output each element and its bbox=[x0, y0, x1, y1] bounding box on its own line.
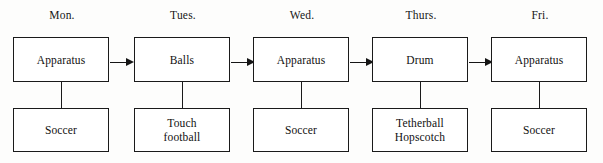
day-label-thursday: Thurs. bbox=[371, 8, 471, 22]
weekly-schedule-diagram: Mon. Apparatus Soccer Tues. Balls Touch … bbox=[0, 0, 603, 163]
connector-line-thursday bbox=[420, 81, 421, 109]
equipment-label-thursday: Drum bbox=[403, 53, 436, 67]
schedule-column-tuesday: Tues. Balls Touch football bbox=[133, 0, 233, 163]
activity-box-thursday: Tetherball Hopscotch bbox=[372, 108, 468, 152]
equipment-box-tuesday: Balls bbox=[134, 37, 230, 82]
schedule-column-thursday: Thurs. Drum Tetherball Hopscotch bbox=[371, 0, 471, 163]
equipment-label-friday: Apparatus bbox=[512, 53, 567, 67]
activity-box-friday: Soccer bbox=[491, 108, 587, 152]
schedule-column-wednesday: Wed. Apparatus Soccer bbox=[252, 0, 352, 163]
activity-box-wednesday: Soccer bbox=[253, 108, 349, 152]
connector-line-monday bbox=[61, 81, 62, 109]
flow-arrow-monday-to-tuesday bbox=[110, 58, 135, 67]
connector-line-tuesday bbox=[182, 81, 183, 109]
day-label-friday: Fri. bbox=[490, 8, 590, 22]
activity-box-monday: Soccer bbox=[13, 108, 109, 152]
schedule-column-monday: Mon. Apparatus Soccer bbox=[12, 0, 112, 163]
equipment-label-monday: Apparatus bbox=[34, 53, 89, 67]
equipment-label-wednesday: Apparatus bbox=[274, 53, 329, 67]
equipment-box-friday: Apparatus bbox=[491, 37, 587, 82]
activity-label-monday: Soccer bbox=[42, 123, 80, 137]
connector-line-friday bbox=[539, 81, 540, 109]
day-label-tuesday: Tues. bbox=[133, 8, 233, 22]
connector-line-wednesday bbox=[301, 81, 302, 109]
equipment-box-wednesday: Apparatus bbox=[253, 37, 349, 82]
equipment-box-monday: Apparatus bbox=[13, 37, 109, 82]
activity-label-friday: Soccer bbox=[520, 123, 558, 137]
schedule-column-friday: Fri. Apparatus Soccer bbox=[490, 0, 590, 163]
activity-label-tuesday: Touch football bbox=[161, 116, 204, 144]
activity-label-thursday: Tetherball Hopscotch bbox=[392, 116, 449, 144]
day-label-monday: Mon. bbox=[12, 8, 112, 22]
equipment-box-thursday: Drum bbox=[372, 37, 468, 82]
activity-box-tuesday: Touch football bbox=[134, 108, 230, 152]
equipment-label-tuesday: Balls bbox=[167, 53, 197, 67]
day-label-wednesday: Wed. bbox=[252, 8, 352, 22]
activity-label-wednesday: Soccer bbox=[282, 123, 320, 137]
